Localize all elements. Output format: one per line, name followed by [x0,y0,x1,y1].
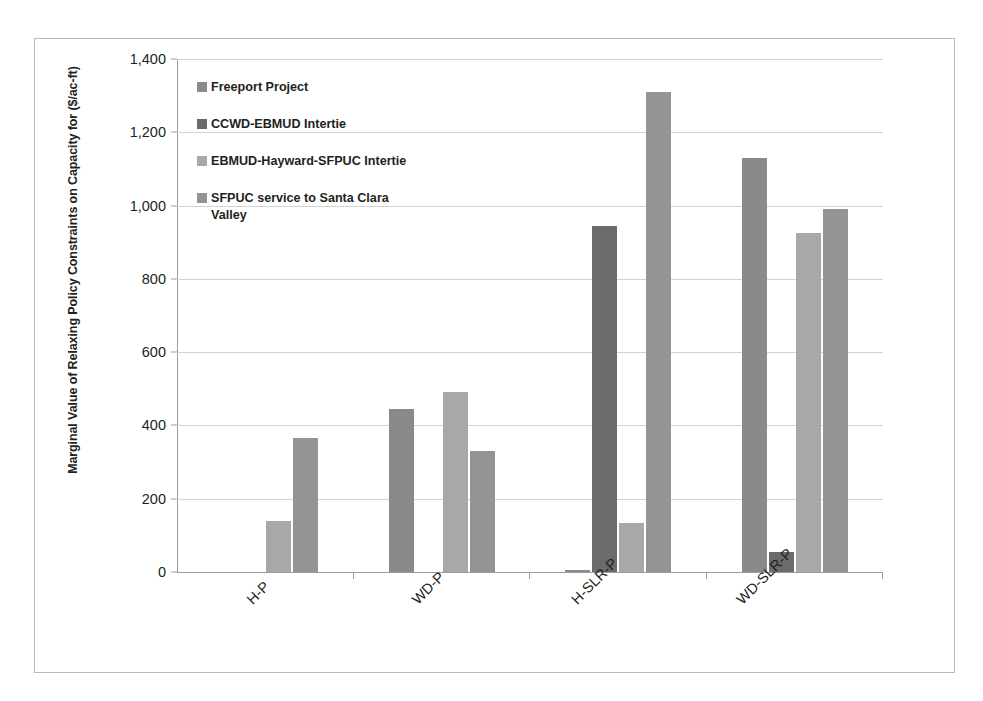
y-tick-label: 200 [142,491,166,507]
bar-group [530,59,707,572]
legend-swatch-icon [197,193,207,203]
bar[interactable] [389,409,414,572]
legend-swatch-icon [197,82,207,92]
legend-item-label: SFPUC service to Santa Clara Valley [211,190,427,224]
bar[interactable] [293,438,318,572]
bar[interactable] [646,92,671,572]
bar[interactable] [823,209,848,572]
bar-slot [769,59,794,572]
bar[interactable] [266,521,291,572]
legend-item-label: Freeport Project [211,79,308,96]
x-axis-category-cell: H-P [177,582,354,672]
legend-item[interactable]: CCWD-EBMUD Intertie [197,116,427,133]
bar-slot [592,59,617,572]
bar[interactable] [796,233,821,572]
legend-item[interactable]: Freeport Project [197,79,427,96]
bar[interactable] [565,570,590,572]
bar-slot [443,59,468,572]
x-axis-group-tick [882,572,883,579]
chart-figure: Marginal Value of Relaxing Policy Constr… [34,38,955,673]
x-axis-category-labels: H-PWD-PH-SLR-PWD-SLR-P [177,582,883,672]
y-tick-label: 600 [142,344,166,360]
y-tick-label: 1,000 [130,198,166,214]
legend-item-label: CCWD-EBMUD Intertie [211,116,346,133]
bar[interactable] [443,392,468,572]
bar-slot [796,59,821,572]
bar[interactable] [742,158,767,572]
y-tick-label: 0 [158,564,166,580]
legend-item-label: EBMUD-Hayward-SFPUC Intertie [211,153,406,170]
x-axis-category-cell: WD-SLR-P [707,582,884,672]
x-axis-category-cell: H-SLR-P [530,582,707,672]
y-tick-label: 400 [142,417,166,433]
x-axis-category-label: H-P [244,578,273,607]
x-axis-category-label: WD-P [408,569,447,608]
bar[interactable] [619,523,644,572]
bar-group [707,59,884,572]
bar-slot [823,59,848,572]
bar-slot [619,59,644,572]
y-tick-label: 1,400 [130,51,166,67]
legend-item[interactable]: EBMUD-Hayward-SFPUC Intertie [197,153,427,170]
bar[interactable] [592,226,617,572]
y-tick-label: 800 [142,271,166,287]
x-axis-group-tick [529,572,530,579]
bar-slot [742,59,767,572]
bar-slot [565,59,590,572]
x-axis-group-tick [353,572,354,579]
y-axis-title: Marginal Value of Relaxing Policy Constr… [64,60,82,480]
legend-item[interactable]: SFPUC service to Santa Clara Valley [197,190,427,224]
y-tick-label: 1,200 [130,124,166,140]
legend-swatch-icon [197,119,207,129]
chart-legend: Freeport ProjectCCWD-EBMUD IntertieEBMUD… [197,79,427,244]
bar-slot [470,59,495,572]
x-axis-group-tick [706,572,707,579]
x-axis-category-cell: WD-P [354,582,531,672]
legend-swatch-icon [197,156,207,166]
bar[interactable] [470,451,495,572]
bar-slot [646,59,671,572]
